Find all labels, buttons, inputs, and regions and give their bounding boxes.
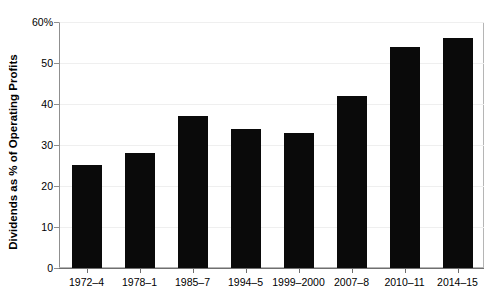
y-axis-title: Dividends as % of Operating Profits xyxy=(0,0,26,304)
x-tick-label: 2010–11 xyxy=(378,276,431,288)
y-tick-label-text: 20 xyxy=(0,180,53,192)
bar xyxy=(125,153,155,268)
x-tick-label: 1978–1 xyxy=(113,276,166,288)
bar xyxy=(72,165,102,268)
y-axis-tick xyxy=(54,268,59,269)
bars-group xyxy=(60,22,484,268)
bar xyxy=(337,96,367,268)
y-tick-label-text: 40 xyxy=(0,98,53,110)
x-tick-label: 1972–4 xyxy=(60,276,113,288)
y-axis-tick xyxy=(54,145,59,146)
x-axis-tick xyxy=(140,268,141,273)
x-axis-tick xyxy=(458,268,459,273)
bar xyxy=(390,47,420,268)
x-tick-label: 1994–5 xyxy=(219,276,272,288)
y-tick-label-text: 50 xyxy=(0,57,53,69)
y-tick-label: 50 xyxy=(0,57,53,69)
y-tick-label-text: 10 xyxy=(0,221,53,233)
bar xyxy=(443,38,473,268)
y-axis-tick xyxy=(54,63,59,64)
x-axis-tick xyxy=(246,268,247,273)
x-tick-label: 2007–8 xyxy=(325,276,378,288)
y-tick-label: 60% xyxy=(0,16,53,28)
y-tick-label: 40 xyxy=(0,98,53,110)
y-axis-tick xyxy=(54,227,59,228)
x-axis-tick xyxy=(87,268,88,273)
x-axis-line xyxy=(59,268,484,269)
bar-chart: Dividends as % of Operating Profits 0102… xyxy=(0,0,493,304)
y-tick-label: 0 xyxy=(0,262,53,274)
y-tick-label-text: 30 xyxy=(0,139,53,151)
y-tick-label-text: 60% xyxy=(0,16,53,28)
x-tick-label: 1999–2000 xyxy=(272,276,325,288)
y-axis-tick xyxy=(54,186,59,187)
x-tick-label: 2014–15 xyxy=(431,276,484,288)
y-tick-label: 10 xyxy=(0,221,53,233)
x-tick-label: 1985–7 xyxy=(166,276,219,288)
x-axis-tick xyxy=(299,268,300,273)
y-axis-tick xyxy=(54,104,59,105)
x-axis-tick xyxy=(352,268,353,273)
y-tick-label: 30 xyxy=(0,139,53,151)
bar xyxy=(178,116,208,268)
bar xyxy=(284,133,314,268)
x-axis-tick xyxy=(193,268,194,273)
y-tick-label-text: 0 xyxy=(0,262,53,274)
bar xyxy=(231,129,261,268)
y-axis-tick xyxy=(54,22,59,23)
x-axis-tick xyxy=(405,268,406,273)
y-tick-label: 20 xyxy=(0,180,53,192)
